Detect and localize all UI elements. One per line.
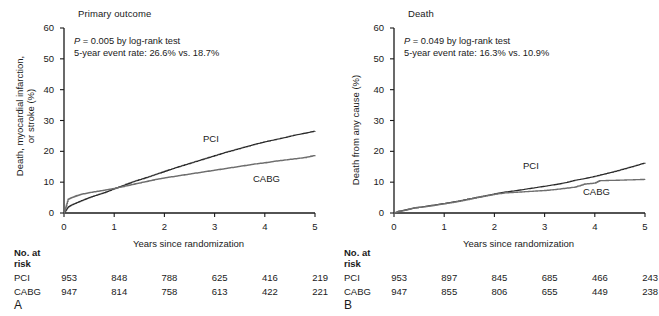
km-curve-pci <box>64 131 315 213</box>
y-tick-label: 0 <box>368 207 384 218</box>
panel-b-risk-row-label-pci: PCI <box>344 272 360 283</box>
x-tick-label: 4 <box>259 221 271 232</box>
risk-value: 845 <box>481 272 507 283</box>
panel-a-primary-outcome: Primary outcome Death, myocardial infarc… <box>0 0 329 316</box>
y-tick-label: 40 <box>38 84 54 95</box>
risk-value: 788 <box>151 272 177 283</box>
y-tick-label: 50 <box>368 53 384 64</box>
x-tick-label: 4 <box>589 221 601 232</box>
y-tick-label: 0 <box>38 207 54 218</box>
risk-value: 422 <box>252 286 278 297</box>
panel-a-plot-area <box>0 0 329 316</box>
panel-a-x-axis-label: Years since randomization <box>133 238 244 249</box>
panel-b-risk-row-label-cabg: CABG <box>344 286 371 297</box>
panel-b-risk-heading-line2: risk <box>344 259 370 270</box>
x-tick-label: 3 <box>539 221 551 232</box>
x-tick-label: 3 <box>209 221 221 232</box>
y-tick-label: 30 <box>38 115 54 126</box>
risk-value: 243 <box>632 272 658 283</box>
risk-value: 219 <box>302 272 328 283</box>
y-tick-label: 20 <box>38 145 54 156</box>
x-tick-label: 5 <box>309 221 321 232</box>
x-tick-label: 2 <box>158 221 170 232</box>
panel-a-risk-row-label-pci: PCI <box>14 272 30 283</box>
x-tick-label: 1 <box>438 221 450 232</box>
panel-b-risk-heading-line1: No. at <box>344 248 370 259</box>
y-tick-label: 60 <box>38 22 54 33</box>
risk-value: 238 <box>632 286 658 297</box>
panel-b-death: Death Death from any cause (%) P = 0.049… <box>330 0 659 316</box>
panel-a-letter: A <box>14 298 22 312</box>
panel-a-risk-heading-line1: No. at <box>14 248 40 259</box>
risk-value: 806 <box>481 286 507 297</box>
panel-a-risk-heading: No. at risk <box>14 248 40 269</box>
x-tick-label: 2 <box>488 221 500 232</box>
risk-value: 685 <box>532 272 558 283</box>
panel-b-risk-heading: No. at risk <box>344 248 370 269</box>
risk-value: 625 <box>202 272 228 283</box>
y-tick-label: 60 <box>368 22 384 33</box>
panel-a-risk-heading-line2: risk <box>14 259 40 270</box>
y-tick-label: 40 <box>368 84 384 95</box>
risk-value: 416 <box>252 272 278 283</box>
panel-b-plot-area <box>330 0 659 316</box>
risk-value: 953 <box>381 272 407 283</box>
risk-value: 947 <box>381 286 407 297</box>
panel-b-letter: B <box>344 298 352 312</box>
x-tick-label: 0 <box>58 221 70 232</box>
risk-value: 897 <box>431 272 457 283</box>
risk-value: 953 <box>51 272 77 283</box>
x-tick-label: 5 <box>639 221 651 232</box>
risk-value: 221 <box>302 286 328 297</box>
y-tick-label: 10 <box>368 176 384 187</box>
risk-value: 848 <box>101 272 127 283</box>
km-curve-cabg <box>394 179 645 213</box>
risk-value: 758 <box>151 286 177 297</box>
panel-a-risk-row-label-cabg: CABG <box>14 286 41 297</box>
y-tick-label: 10 <box>38 176 54 187</box>
y-tick-label: 20 <box>368 145 384 156</box>
risk-value: 613 <box>202 286 228 297</box>
x-tick-label: 1 <box>108 221 120 232</box>
risk-value: 449 <box>582 286 608 297</box>
risk-value: 466 <box>582 272 608 283</box>
risk-value: 947 <box>51 286 77 297</box>
risk-value: 814 <box>101 286 127 297</box>
panel-b-x-axis-label: Years since randomization <box>463 238 574 249</box>
y-tick-label: 30 <box>368 115 384 126</box>
x-tick-label: 0 <box>388 221 400 232</box>
y-tick-label: 50 <box>38 53 54 64</box>
risk-value: 655 <box>532 286 558 297</box>
risk-value: 855 <box>431 286 457 297</box>
